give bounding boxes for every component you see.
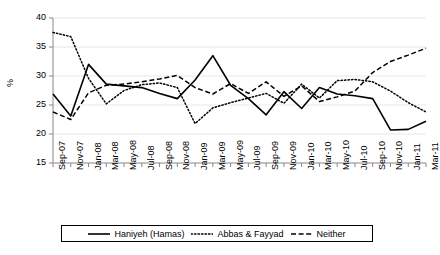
x-axis-tick-label: Sep-08	[164, 141, 174, 170]
x-axis-tick-label: Jan-10	[306, 142, 316, 170]
x-axis-tick-label: Nov-10	[394, 141, 404, 170]
x-axis-tick-label: Mar-09	[217, 141, 227, 170]
y-axis-title: %	[5, 79, 15, 87]
y-axis-tick-label: 30	[22, 70, 46, 80]
series-line	[53, 56, 426, 130]
x-axis-tick-label: Sep-07	[57, 141, 67, 170]
series-line	[53, 33, 426, 124]
x-axis-tick-label: Mar-10	[323, 141, 333, 170]
legend-label: Haniyeh (Hamas)	[114, 229, 184, 239]
x-axis-tick-label: Sep-10	[377, 141, 387, 170]
x-axis-tick-label: Nov-07	[75, 141, 85, 170]
x-axis-tick-label: Mar-11	[430, 142, 440, 170]
x-axis-tick-label: May-10	[341, 140, 351, 170]
y-axis-tick-label: 35	[22, 41, 46, 51]
x-axis-tick-label: Jul-10	[359, 145, 369, 170]
legend-item[interactable]: Haniyeh (Hamas)	[88, 229, 184, 239]
x-axis-tick-label: Jul-08	[146, 145, 156, 170]
y-axis-tick-label: 40	[22, 12, 46, 22]
legend-line-swatch	[88, 230, 110, 238]
x-axis-tick-label: May-08	[128, 140, 138, 170]
x-axis-tick-label: Jan-08	[93, 142, 103, 170]
chart-legend: Haniyeh (Hamas)Abbas & FayyadNeither	[61, 225, 373, 242]
y-axis-tick-label: 15	[22, 157, 46, 167]
legend-item[interactable]: Abbas & Fayyad	[191, 229, 283, 239]
x-axis-tick-label: Mar-08	[110, 141, 120, 170]
x-axis-tick-label: Nov-09	[288, 141, 298, 170]
x-axis-tick-label: Jul-09	[252, 145, 262, 170]
y-axis-tick-label: 20	[22, 128, 46, 138]
x-axis-tick-label: Nov-08	[181, 141, 191, 170]
legend-item[interactable]: Neither	[291, 229, 346, 239]
y-axis-tick-label: 25	[22, 99, 46, 109]
legend-line-swatch	[291, 230, 313, 238]
x-axis-tick-label: Jan-09	[199, 142, 209, 170]
legend-line-swatch	[191, 230, 213, 238]
x-axis-tick-label: May-09	[235, 140, 245, 170]
x-axis-tick-label: Jan-11	[412, 143, 422, 170]
gridlines	[53, 18, 426, 134]
x-axis-tick-label: Sep-09	[270, 141, 280, 170]
legend-label: Neither	[317, 229, 346, 239]
legend-label: Abbas & Fayyad	[217, 229, 283, 239]
